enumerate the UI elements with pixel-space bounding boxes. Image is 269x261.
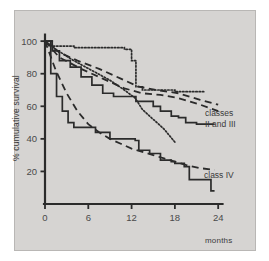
annotation-classes-line2: II and III	[205, 119, 236, 130]
y-axis-tick-label: 100	[21, 36, 37, 47]
x-axis-tick-label: 18	[170, 212, 181, 223]
x-axis-tick-label: 0	[42, 212, 47, 223]
y-axis-title: % cumulative survival	[11, 75, 21, 161]
y-axis-tick-label: 80	[26, 68, 37, 79]
x-axis-unit-label: months	[205, 236, 232, 245]
y-axis-tick-label: 40	[26, 133, 37, 144]
y-axis-tick-label: 60	[26, 101, 37, 112]
annotation-classes-line1: classes	[205, 108, 236, 119]
x-axis-tick-label: 24	[213, 212, 224, 223]
chart-figure: 2040608010006121824 % cumulative surviva…	[0, 0, 269, 261]
x-axis-tick-label: 6	[86, 212, 91, 223]
chart-plot-area: 2040608010006121824	[0, 0, 269, 261]
x-axis-tick-label: 12	[126, 212, 137, 223]
annotation-class-iv: class IV	[204, 170, 234, 181]
y-axis-tick-label: 20	[26, 166, 37, 177]
series-line-3	[45, 41, 175, 142]
series-line-2	[45, 41, 204, 91]
annotation-classes-ii-and-iii: classes II and III	[205, 108, 236, 130]
